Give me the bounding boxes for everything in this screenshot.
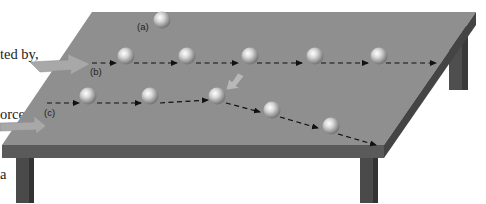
label-b: (b) bbox=[90, 66, 102, 77]
table-leg-front-left bbox=[16, 158, 34, 203]
table-leg-front-right bbox=[360, 158, 378, 203]
ball-a bbox=[154, 12, 171, 29]
table-diagram: (a) (b) (c) bbox=[0, 0, 486, 204]
label-c: (c) bbox=[44, 107, 55, 118]
table-front-edge bbox=[2, 145, 384, 158]
label-a: (a) bbox=[137, 21, 149, 32]
